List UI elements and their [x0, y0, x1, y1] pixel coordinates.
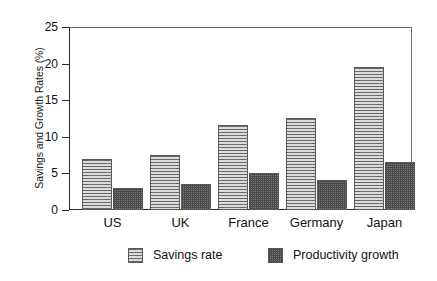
bar-us-productivity-growth — [113, 188, 143, 210]
x-tick-label-japan: Japan — [334, 215, 435, 230]
legend-item-savings-rate[interactable]: Savings rate — [128, 246, 222, 264]
y-tick-20: 20 — [62, 64, 69, 65]
bar-us-savings-rate — [82, 159, 112, 210]
y-tick-label: 10 — [45, 130, 58, 144]
bar-group-us — [82, 27, 143, 210]
bar-france-savings-rate — [218, 125, 248, 210]
bar-uk-productivity-growth — [181, 184, 211, 210]
y-tick-label: 15 — [45, 93, 58, 107]
chart-legend: Savings rateProductivity growth — [0, 246, 437, 268]
legend-swatch-savings-rate — [128, 248, 143, 263]
bar-germany-savings-rate — [286, 118, 316, 210]
bar-france-productivity-growth — [249, 173, 279, 210]
bar-group-germany — [286, 27, 347, 210]
bar-uk-savings-rate — [150, 155, 180, 210]
bar-group-uk — [150, 27, 211, 210]
legend-item-productivity-growth[interactable]: Productivity growth — [268, 246, 399, 264]
bar-japan-productivity-growth — [385, 162, 415, 210]
y-tick-label: 0 — [51, 203, 58, 217]
y-tick-label: 20 — [45, 57, 58, 71]
bar-group-france — [218, 27, 279, 210]
bar-chart-figure: Savings and Growth Rates (%) 0510152025 … — [0, 0, 437, 281]
y-tick-0: 0 — [62, 210, 69, 211]
y-tick-10: 10 — [62, 137, 69, 138]
legend-label: Savings rate — [153, 248, 222, 262]
bar-germany-productivity-growth — [317, 180, 347, 210]
bar-japan-savings-rate — [354, 67, 384, 210]
y-tick-label: 25 — [45, 20, 58, 34]
legend-label: Productivity growth — [293, 248, 399, 262]
legend-swatch-productivity-growth — [268, 248, 283, 263]
y-tick-15: 15 — [62, 100, 69, 101]
y-tick-25: 25 — [62, 27, 69, 28]
y-axis-title: Savings and Growth Rates (%) — [33, 18, 45, 218]
bar-group-japan — [354, 27, 415, 210]
y-tick-label: 5 — [51, 166, 58, 180]
y-tick-5: 5 — [62, 173, 69, 174]
